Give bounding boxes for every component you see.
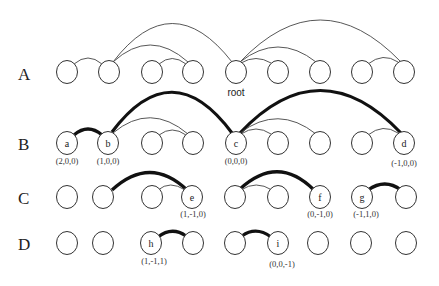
edge	[159, 59, 186, 65]
edge-thick	[368, 184, 401, 190]
row-label-b: B	[18, 135, 29, 154]
row-label-d: D	[18, 235, 30, 254]
node	[57, 232, 78, 255]
edge	[241, 59, 271, 64]
node	[225, 232, 246, 255]
node	[142, 61, 163, 84]
edge-thick	[242, 231, 271, 237]
node-g-letter: g	[360, 192, 365, 203]
node	[57, 186, 78, 209]
edge	[74, 58, 102, 64]
coord-i: (0,0,-1)	[269, 259, 295, 269]
node-d-letter: d	[402, 138, 407, 149]
edge	[368, 128, 398, 135]
node	[225, 186, 246, 209]
edge	[240, 47, 316, 62]
row-b-nodes: a b c d	[57, 132, 415, 155]
edge-thick	[158, 231, 186, 237]
node	[57, 61, 78, 84]
root-label: root	[227, 87, 244, 98]
edge	[241, 129, 271, 134]
coord-e: (1,-1,0)	[180, 209, 206, 219]
tree-diagram: A B C D root a b	[0, 0, 439, 286]
node-h-letter: h	[149, 238, 154, 249]
edge	[159, 130, 186, 135]
row-label-a: A	[18, 65, 31, 84]
node	[142, 186, 163, 209]
node	[93, 232, 114, 255]
coord-g: (-1,1,0)	[353, 209, 379, 219]
edge	[240, 20, 401, 62]
edge	[113, 24, 232, 63]
edge-thick	[112, 92, 232, 133]
edge-thick	[240, 91, 401, 134]
node-a-letter: a	[65, 138, 70, 149]
root-node	[226, 61, 247, 84]
node	[142, 132, 163, 155]
node	[268, 61, 289, 84]
node	[310, 61, 331, 84]
node-c-letter: c	[234, 138, 239, 149]
node	[268, 132, 289, 155]
node	[93, 186, 114, 209]
row-c-nodes: e f g	[57, 186, 417, 209]
coord-a: (2,0,0)	[56, 156, 79, 166]
node	[351, 232, 372, 255]
row-d-edges	[158, 231, 271, 237]
row-a-edges	[74, 20, 401, 64]
node	[183, 232, 204, 255]
coord-h: (1,-1,1)	[141, 256, 167, 266]
node	[268, 186, 289, 209]
node	[308, 232, 329, 255]
node	[99, 61, 120, 84]
node	[183, 132, 204, 155]
node	[352, 132, 373, 155]
node-e-letter: e	[190, 192, 195, 203]
edge-thick	[74, 129, 102, 135]
node	[396, 232, 417, 255]
coord-c: (0,0,0)	[225, 156, 248, 166]
node	[310, 132, 331, 155]
row-a-nodes	[57, 61, 415, 84]
edge	[368, 57, 398, 64]
coord-d: (-1,0,0)	[391, 158, 417, 168]
row-d-nodes: h i	[57, 232, 417, 255]
coord-b: (1,0,0)	[97, 156, 120, 166]
node	[394, 61, 415, 84]
node	[352, 61, 373, 84]
node	[396, 186, 417, 209]
node-i-letter: i	[277, 238, 280, 249]
row-label-c: C	[18, 189, 29, 208]
node-b-letter: b	[106, 138, 111, 149]
node	[183, 61, 204, 84]
coord-f: (0,-1,0)	[307, 209, 333, 219]
